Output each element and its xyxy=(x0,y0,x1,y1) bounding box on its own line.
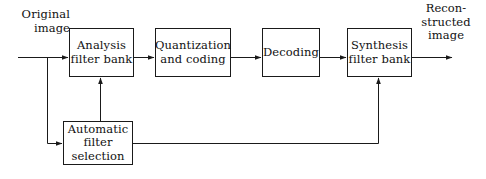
box-decoding xyxy=(263,29,320,77)
edge-automatic-to-synthesis xyxy=(133,78,379,144)
box-analysis-filter-bank xyxy=(70,29,134,77)
box-synthesis-filter-bank xyxy=(348,29,412,77)
edge-input-tap-to-automatic xyxy=(48,58,63,144)
box-quantization-and-coding xyxy=(156,29,231,77)
box-automatic-filter-selection xyxy=(64,122,133,165)
label-original-image: Original image xyxy=(8,8,70,35)
label-reconstructed-image: Recon- structed image xyxy=(410,2,482,43)
block-diagram: Analysis filter bank Quantization and co… xyxy=(0,0,486,179)
